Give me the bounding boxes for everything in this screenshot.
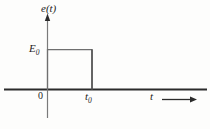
pulse-width-label-subscript: 0 <box>88 96 92 105</box>
arrow-up-icon <box>45 14 50 22</box>
y-axis-label-suffix: ) <box>53 2 57 14</box>
waveform-plot-canvas <box>0 0 210 129</box>
origin-label: 0 <box>38 91 43 101</box>
amplitude-label-base: E <box>29 42 36 54</box>
pulse-waveform-trace <box>48 50 93 90</box>
pulse-width-label: t0 <box>85 91 92 104</box>
x-axis-label: t <box>150 91 153 102</box>
pulse-waveform-figure: e(t) E0 0 t0 t <box>0 0 210 129</box>
y-axis-label: e(t) <box>41 3 56 14</box>
arrow-right-icon <box>190 97 197 103</box>
amplitude-label-subscript: 0 <box>36 48 40 57</box>
amplitude-label: E0 <box>29 43 39 56</box>
y-axis-label-prefix: e( <box>41 2 50 14</box>
